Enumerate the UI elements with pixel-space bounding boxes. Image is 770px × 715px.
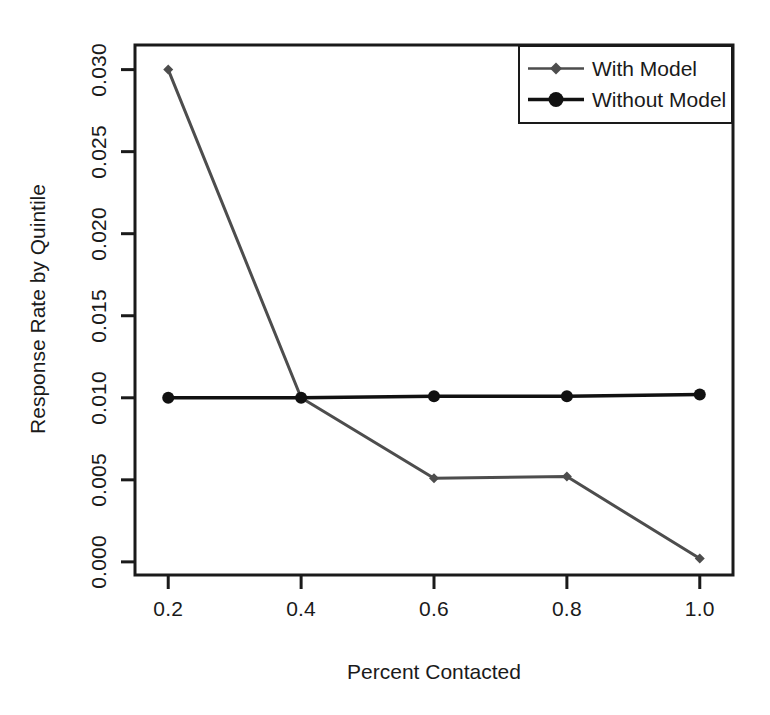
data-point (295, 392, 307, 404)
legend-entry-without-model: Without Model (528, 84, 733, 115)
y-axis-title: Response Rate by Quintile (26, 44, 50, 574)
y-tick-label: 0.020 (87, 198, 111, 270)
data-point (163, 65, 173, 75)
legend: With Model Without Model (518, 45, 733, 124)
chart-container: 0.0000.0050.0100.0150.0200.0250.030 0.20… (0, 0, 770, 715)
axis-ticks (121, 70, 700, 589)
x-tick-label: 0.4 (261, 597, 341, 621)
data-series-group (162, 65, 706, 564)
y-tick-label: 0.015 (87, 280, 111, 352)
y-tick-label: 0.005 (87, 444, 111, 516)
x-tick-label: 0.2 (128, 597, 208, 621)
x-axis-title: Percent Contacted (49, 660, 770, 684)
y-tick-label: 0.000 (87, 526, 111, 598)
data-point (162, 392, 174, 404)
legend-sample-without-model (528, 84, 584, 115)
y-tick-label: 0.010 (87, 362, 111, 434)
legend-label-with-model: With Model (584, 57, 697, 81)
data-point (428, 390, 440, 402)
data-point (561, 390, 573, 402)
data-point (694, 389, 706, 401)
series-line-0 (168, 70, 700, 559)
legend-entry-with-model: With Model (528, 53, 733, 84)
x-tick-label: 0.8 (527, 597, 607, 621)
legend-sample-with-model (528, 53, 584, 84)
plot-frame (135, 45, 733, 575)
legend-label-without-model: Without Model (584, 88, 726, 112)
y-tick-label: 0.030 (87, 34, 111, 106)
x-tick-label: 0.6 (394, 597, 474, 621)
x-tick-label: 1.0 (660, 597, 740, 621)
y-tick-label: 0.025 (87, 116, 111, 188)
